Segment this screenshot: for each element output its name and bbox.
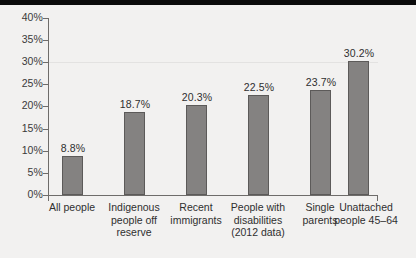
y-tick-label-40: 40% bbox=[5, 11, 43, 23]
y-tick-label-5: 5% bbox=[5, 166, 43, 178]
bar-value-single-parents: 23.7% bbox=[293, 76, 349, 88]
plot-area: 40% 35% 30% 25% 20% 15% 10% 5% bbox=[0, 5, 416, 258]
y-axis-line bbox=[48, 18, 49, 195]
y-tick-mark-15 bbox=[43, 129, 48, 130]
y-tick-mark-40 bbox=[43, 18, 48, 19]
bar-recent-immigrants[interactable] bbox=[186, 105, 207, 195]
bar-chart: 40% 35% 30% 25% 20% 15% 10% 5% bbox=[0, 5, 416, 258]
bar-single-parents[interactable] bbox=[310, 90, 331, 195]
y-tick-label-20: 20% bbox=[5, 99, 43, 111]
x-label-line: (2012 data) bbox=[220, 226, 296, 239]
y-tick-label-35: 35% bbox=[5, 33, 43, 45]
y-tick-mark-35 bbox=[43, 40, 48, 41]
y-tick-label-10: 10% bbox=[5, 144, 43, 156]
gridline-30 bbox=[48, 62, 378, 63]
y-tick-mark-20 bbox=[43, 106, 48, 107]
x-label-unattached-45-64: Unattached people 45–64 bbox=[320, 201, 412, 226]
bar-value-people-with-disabilities: 22.5% bbox=[231, 81, 287, 93]
y-tick-mark-25 bbox=[43, 84, 48, 85]
y-tick-label-30: 30% bbox=[5, 55, 43, 67]
y-tick-label-25: 25% bbox=[5, 77, 43, 89]
y-tick-mark-30 bbox=[43, 62, 48, 63]
y-tick-label-15: 15% bbox=[5, 122, 43, 134]
bar-value-all-people: 8.8% bbox=[45, 142, 101, 154]
bar-value-unattached-45-64: 30.2% bbox=[331, 47, 387, 59]
bar-all-people[interactable] bbox=[62, 156, 83, 195]
y-tick-mark-0 bbox=[43, 195, 48, 196]
x-label-line: Unattached bbox=[320, 201, 412, 214]
bar-value-indigenous-off-reserve: 18.7% bbox=[107, 98, 163, 110]
bar-unattached-45-64[interactable] bbox=[348, 61, 369, 195]
y-tick-label-0: 0% bbox=[5, 188, 43, 200]
x-label-line: reserve bbox=[96, 226, 172, 239]
bar-people-with-disabilities[interactable] bbox=[248, 95, 269, 195]
bar-indigenous-off-reserve[interactable] bbox=[124, 112, 145, 195]
x-label-line: people 45–64 bbox=[320, 214, 412, 227]
x-axis-line bbox=[48, 195, 378, 196]
bar-value-recent-immigrants: 20.3% bbox=[169, 91, 225, 103]
y-tick-mark-5 bbox=[43, 173, 48, 174]
